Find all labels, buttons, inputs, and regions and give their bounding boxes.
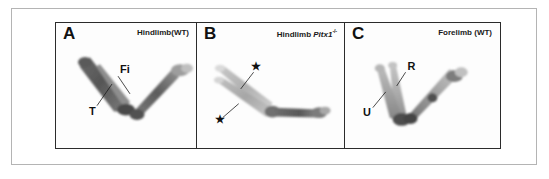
panel-c-bones	[375, 62, 468, 126]
asterisk-lower-leader-line	[223, 104, 239, 118]
zeugopod-upper-proximal-tip	[215, 65, 225, 72]
olecranon-process	[375, 64, 385, 72]
panel-c-forelimb-wt: C Forelimb (WT)	[344, 23, 499, 148]
panel-a-specimen-image: Fi T	[56, 23, 196, 148]
humerus-proximal-cap	[455, 67, 468, 77]
panel-c-specimen-image: R U	[345, 23, 499, 148]
figure-root: A Hindlimb(WT)	[0, 0, 549, 179]
bone-label-fi: Fi	[120, 63, 130, 75]
panel-a-hindlimb-wt: A Hindlimb(WT)	[56, 23, 196, 148]
humerus-ossification-mark	[427, 93, 437, 102]
femur-proximal-cap	[320, 107, 331, 115]
bone-label-t: T	[89, 105, 96, 117]
femur-distal-condyle	[130, 109, 145, 120]
elbow-joint	[404, 113, 418, 124]
panel-group: A Hindlimb(WT)	[55, 22, 501, 149]
panel-b-hindlimb-pitx1-null: B Hindlimb Pitx1-/-	[196, 23, 344, 148]
asterisk-upper: ★	[251, 60, 261, 72]
asterisk-lower: ★	[215, 113, 225, 125]
radius-proximal-head	[388, 62, 397, 69]
tibia-proximal-head	[78, 57, 92, 68]
ulna-leader-line	[373, 92, 386, 108]
panel-b-specimen-image: ★ ★	[197, 23, 344, 148]
zeugopod-lower-proximal-tip	[214, 77, 224, 84]
femur-proximal-cap	[181, 64, 193, 73]
bone-label-r: R	[408, 60, 416, 72]
bone-label-u: U	[363, 106, 371, 118]
